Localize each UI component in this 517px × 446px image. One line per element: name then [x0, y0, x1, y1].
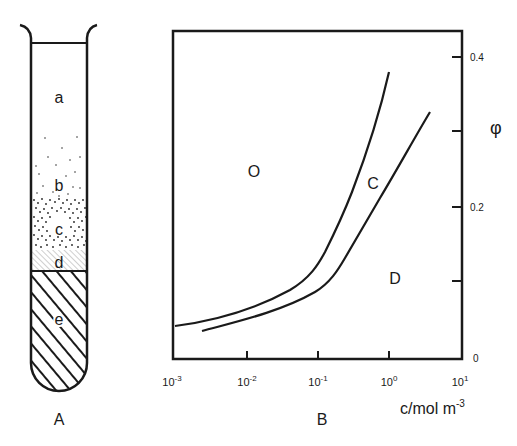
phase-diagram: 10-3 10-2 10-1 100 101 0.4 0.2 0 φ O C D… [162, 31, 501, 417]
svg-text:101: 101 [452, 374, 469, 388]
y-axis-ticks [452, 57, 462, 281]
layer-label-d: d [55, 254, 64, 271]
svg-text:100: 100 [381, 374, 398, 388]
curve-c-d-boundary [202, 112, 430, 331]
layer-e [31, 271, 87, 396]
x-axis-label: c/mol m-3 [400, 398, 465, 417]
test-tube: a b c d e [20, 25, 97, 396]
layer-label-e: e [55, 311, 64, 328]
layer-label-c: c [55, 221, 63, 238]
region-label-o: O [248, 163, 260, 180]
layer-label-b: b [55, 177, 64, 194]
curve-o-c-boundary [175, 72, 389, 326]
svg-text:10-3: 10-3 [162, 374, 182, 388]
y-tick-0.4: 0.4 [470, 52, 484, 63]
plot-frame [173, 31, 462, 359]
panel-b-label: B [317, 411, 328, 428]
y-tick-0.2: 0.2 [470, 202, 484, 213]
figure: a b c d e A 10-3 10-2 10-1 100 101 [0, 0, 517, 446]
svg-text:10-2: 10-2 [237, 374, 257, 388]
panel-a-label: A [54, 411, 65, 428]
x-tick-labels: 10-3 10-2 10-1 100 101 [162, 374, 469, 388]
region-label-d: D [389, 270, 401, 287]
y-tick-0: 0 [473, 353, 479, 364]
region-label-c: C [367, 175, 379, 192]
svg-text:10-1: 10-1 [308, 374, 328, 388]
layer-label-a: a [55, 89, 64, 106]
y-axis-label: φ [490, 118, 502, 138]
